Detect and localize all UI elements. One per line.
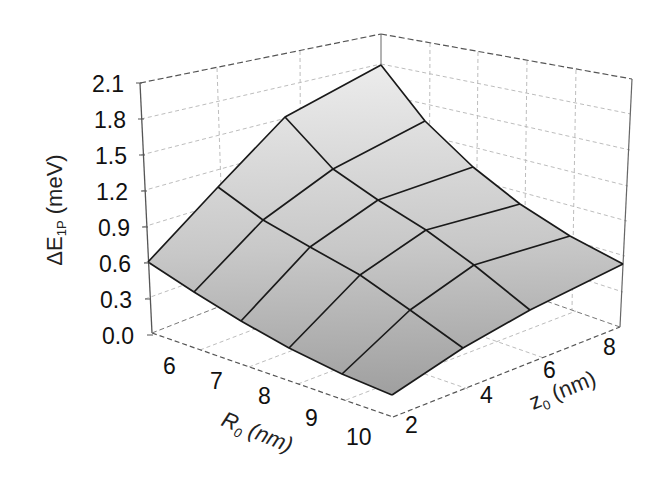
surface-plot: 2.1 1.8 1.5 1.2 0.9 0.6 0.3 0.0 ΔE1P (me… [0,0,667,484]
x-tick-label: 10 [346,424,372,450]
svg-text:z0 (nm): z0 (nm) [526,365,601,417]
z-tick-label: 2.1 [92,71,124,97]
z-tick-label: 0.0 [102,323,134,349]
y-axis-title: z0 (nm) [526,365,601,417]
z-axis-title: ΔE1P (meV) [42,154,69,265]
x-axis-title: R0 (nm) [217,406,297,460]
y-tick-label: 8 [603,334,616,360]
y-tick-label: 4 [480,382,493,408]
z-tick-label: 1.2 [96,179,128,205]
x-tick-label: 8 [258,383,271,409]
y-tick-label: 2 [405,412,418,438]
z-tick-label: 0.3 [100,287,132,313]
x-tick-label: 9 [305,405,318,431]
svg-text:ΔE1P (meV): ΔE1P (meV) [42,154,69,265]
svg-text:R0 (nm): R0 (nm) [217,406,297,460]
z-tick-label: 1.8 [94,107,126,133]
x-tick-label: 7 [210,368,223,394]
z-tick-label: 0.6 [99,251,131,277]
z-tick-label: 1.5 [95,143,127,169]
z-tick-label: 0.9 [98,215,130,241]
x-tick-label: 6 [163,353,176,379]
